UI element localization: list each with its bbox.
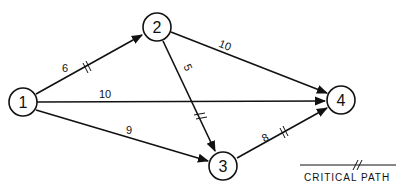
network-diagram: 6 10 9 10 5 [0,0,403,190]
edge-weight-3-4: 8 [260,131,271,144]
node-3: 3 [209,152,237,180]
edge-1-3: 9 [36,110,208,161]
edge-1-2: 6 [36,35,142,94]
node-label-2: 2 [153,19,162,36]
edge-weight-2-3: 5 [181,62,194,73]
edge-weight-1-4: 10 [99,88,111,100]
node-4: 4 [327,86,355,114]
edge-2-3: 5 [163,41,215,151]
node-label-1: 1 [19,94,28,111]
node-1: 1 [9,88,37,116]
node-label-4: 4 [337,92,346,109]
critical-path-marker [194,113,207,119]
node-2: 2 [143,13,171,41]
edge-2-4: 10 [171,32,327,93]
legend: CRITICAL PATH [300,160,396,183]
edge-weight-1-3: 9 [126,124,132,136]
edge-1-4: 10 [37,88,325,102]
node-label-3: 3 [219,158,228,175]
edge-weight-1-2: 6 [62,62,68,74]
legend-label: CRITICAL PATH [304,172,390,183]
edge-3-4: 8 [237,108,327,158]
